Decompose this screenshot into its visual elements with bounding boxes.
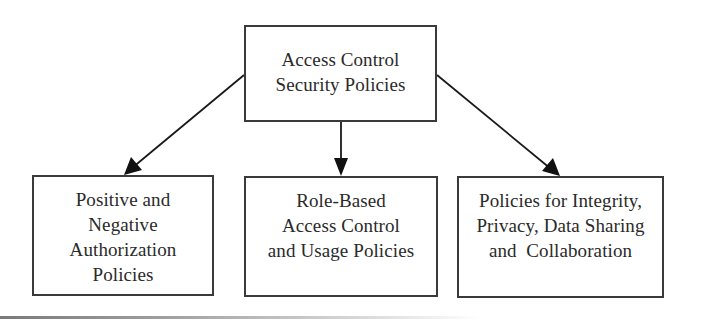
arrowhead-icon — [542, 158, 560, 176]
arrow-root-to-pos-neg — [124, 75, 244, 175]
diagram-canvas: Access Control Security Policies Positiv… — [0, 0, 701, 320]
node-label-line: Role-Based — [296, 188, 386, 213]
node-role-based-access-control: Role-Based Access Control and Usage Poli… — [244, 176, 438, 297]
node-label-line: Policies for Integrity, — [479, 188, 642, 213]
node-label-line: and Usage Policies — [268, 238, 414, 263]
arrowhead-icon — [124, 157, 142, 175]
node-label-line: Positive and — [76, 187, 171, 212]
node-integrity-privacy-sharing-collaboration: Policies for Integrity, Privacy, Data Sh… — [457, 176, 664, 298]
node-access-control-security-policies: Access Control Security Policies — [244, 25, 437, 122]
node-label-line: Access Control — [281, 47, 399, 72]
node-label-line: Policies — [93, 262, 154, 287]
node-label-line: Negative — [88, 212, 157, 237]
node-label-line: Access Control — [282, 213, 400, 238]
node-positive-negative-authorization-policies: Positive and Negative Authorization Poli… — [32, 175, 214, 296]
arrowhead-icon — [334, 158, 348, 176]
node-label-line: and Collaboration — [489, 238, 632, 263]
node-label-line: Authorization — [70, 237, 177, 262]
arrow-root-to-rbac — [334, 121, 348, 176]
bottom-divider — [0, 316, 480, 319]
node-label-line: Privacy, Data Sharing — [476, 213, 644, 238]
node-label-line: Security Policies — [276, 72, 406, 97]
arrow-root-to-integrity — [437, 75, 560, 176]
